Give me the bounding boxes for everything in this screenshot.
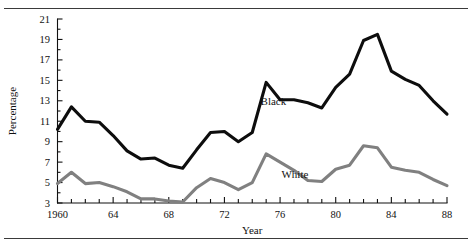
x-tick-label: 88	[442, 209, 453, 220]
x-axis-ticks	[58, 197, 448, 203]
x-tick-label: 64	[108, 209, 119, 220]
y-tick-label: 9	[45, 136, 50, 147]
y-axis-group: 3579111315171921	[40, 14, 63, 209]
y-axis-tick-labels: 3579111315171921	[40, 14, 51, 209]
series-lines	[58, 34, 448, 202]
series-line-white	[58, 146, 448, 202]
x-tick-label: 84	[386, 209, 397, 220]
x-tick-label: 76	[275, 209, 286, 220]
y-tick-label: 11	[40, 116, 50, 127]
y-tick-label: 17	[40, 54, 51, 65]
y-tick-label: 15	[40, 75, 51, 86]
series-annotations: BlackWhite	[261, 95, 309, 181]
line-chart: 3579111315171921 196064687276808488 Blac…	[0, 0, 472, 248]
x-tick-label: 72	[219, 209, 230, 220]
series-line-black	[58, 34, 448, 168]
x-axis-group: 196064687276808488	[47, 197, 452, 220]
x-tick-label: 68	[164, 209, 175, 220]
x-axis-tick-labels: 196064687276808488	[47, 209, 452, 220]
y-axis-title: Percentage	[6, 87, 18, 135]
y-tick-label: 21	[40, 14, 51, 25]
x-tick-label: 1960	[47, 209, 68, 220]
figure-container: 3579111315171921 196064687276808488 Blac…	[0, 0, 472, 248]
x-tick-label: 80	[330, 209, 341, 220]
y-tick-label: 7	[45, 157, 50, 168]
y-tick-label: 13	[40, 95, 51, 106]
series-label-black: Black	[261, 95, 287, 107]
x-axis-title: Year	[242, 224, 263, 236]
y-tick-label: 3	[45, 198, 50, 209]
y-tick-label: 19	[40, 34, 51, 45]
y-tick-label: 5	[45, 177, 50, 188]
series-label-white: White	[281, 168, 308, 180]
